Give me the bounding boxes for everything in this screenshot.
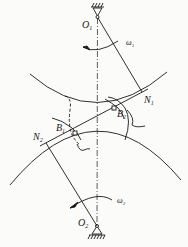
center-line: [97, 18, 98, 225]
point-b2: [112, 106, 116, 110]
label-n1: N1: [143, 94, 154, 106]
label-b1: B1: [56, 122, 65, 134]
point-b1: [73, 131, 77, 135]
ground-support-top: [91, 3, 104, 19]
label-n2: N2: [32, 131, 43, 143]
radius-o2-n2: [46, 143, 97, 226]
label-o2: O2: [78, 217, 88, 229]
label-omega1: ω1: [126, 38, 134, 48]
omega2-arrow: [70, 196, 112, 208]
label-omega2: ω2: [117, 196, 126, 206]
label-b2: B2: [117, 108, 126, 120]
radius-o1-n1: [98, 18, 142, 92]
label-o1: O1: [82, 19, 92, 31]
ground-support-bottom: [88, 225, 105, 240]
gear-mesh-diagram: O1 ω1 N1 B2 B1 N2 ω2 O2: [0, 0, 188, 247]
